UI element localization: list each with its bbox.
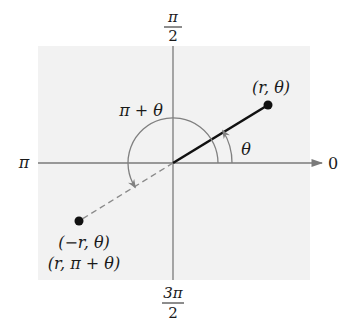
svg-text:3π: 3π [163, 284, 184, 302]
point-neg-r-theta [75, 217, 84, 226]
label-pi-plus-theta: π + θ [118, 101, 163, 120]
label-point-neg-r-theta: (−r, θ) [58, 233, 110, 252]
svg-text:π: π [167, 8, 179, 26]
label-zero: 0 [328, 154, 338, 173]
label-pi-over-2: π 2 [164, 8, 182, 45]
svg-text:2: 2 [168, 304, 178, 322]
svg-text:2: 2 [168, 27, 178, 45]
point-r-theta [264, 101, 273, 110]
polar-diagram: π 2 3π 2 π 0 (r, θ) (−r, θ) (r, π + θ) θ… [0, 0, 338, 334]
label-3pi-over-2: 3π 2 [162, 284, 184, 322]
label-pi: π [18, 153, 30, 172]
label-point-r-pi-plus-theta: (r, π + θ) [48, 254, 120, 273]
label-theta: θ [241, 140, 251, 159]
label-point-r-theta: (r, θ) [252, 78, 290, 97]
